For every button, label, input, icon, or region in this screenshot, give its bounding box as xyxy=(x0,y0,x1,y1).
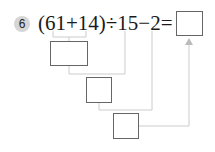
final-answer-box[interactable] xyxy=(176,11,203,36)
step-2-box[interactable] xyxy=(86,77,112,103)
bracket-connector xyxy=(53,31,86,37)
step-1-box[interactable] xyxy=(50,41,88,66)
connector-step3-to-answer xyxy=(139,44,189,126)
arrow-up-icon xyxy=(185,38,193,45)
step-3-box[interactable] xyxy=(113,113,139,139)
